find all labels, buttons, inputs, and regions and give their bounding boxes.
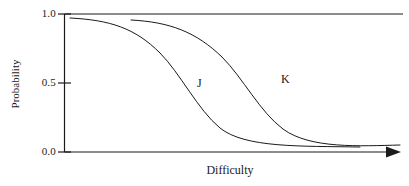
series-k-curve: [131, 20, 400, 146]
y-tick-label-mid: 0.5: [28, 77, 56, 88]
plot-canvas: [0, 0, 409, 186]
y-axis-label: Probability: [9, 39, 21, 129]
x-axis-arrow-icon: [386, 147, 401, 158]
x-axis-label: Difficulty: [160, 164, 300, 177]
curve-label-k: K: [281, 73, 290, 85]
y-tick-label-bottom: 0.0: [28, 146, 56, 157]
series-j-curve: [70, 18, 360, 147]
curve-label-j: J: [197, 77, 202, 89]
y-tick-label-top: 1.0: [28, 8, 56, 19]
chart-figure: 1.0 0.5 0.0 Probability Difficulty J K: [0, 0, 409, 186]
